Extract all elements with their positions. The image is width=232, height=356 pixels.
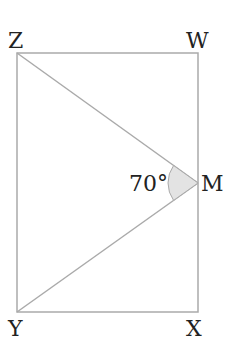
vertex-label-y: Y xyxy=(7,316,23,341)
segment-ym xyxy=(17,183,198,312)
vertex-label-x: X xyxy=(186,316,202,341)
segment-zm xyxy=(17,53,198,183)
geometry-diagram: Z W M Y X 70° xyxy=(0,0,232,356)
vertex-label-m: M xyxy=(201,171,224,196)
vertex-label-w: W xyxy=(186,28,209,53)
angle-arc-m xyxy=(168,166,198,201)
angle-label: 70° xyxy=(129,171,168,196)
vertex-label-z: Z xyxy=(8,28,23,53)
